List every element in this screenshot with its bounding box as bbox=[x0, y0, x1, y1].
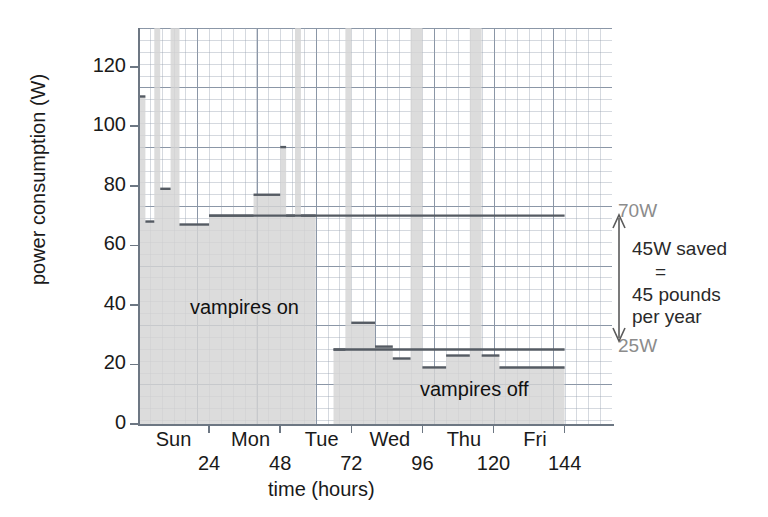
x-day-label-wed: Wed bbox=[355, 428, 425, 451]
y-tick-label-100: 100 bbox=[82, 113, 126, 136]
series-area-0 bbox=[138, 28, 316, 424]
y-tick-120 bbox=[130, 66, 139, 68]
x-tick-label-144: 144 bbox=[535, 452, 595, 475]
saved-line-1: 45W saved bbox=[632, 238, 727, 259]
series-vampires-off bbox=[334, 28, 565, 424]
y-tick-label-0: 0 bbox=[82, 411, 126, 434]
x-tick-label-24: 24 bbox=[179, 452, 239, 475]
y-tick-label-40: 40 bbox=[82, 292, 126, 315]
y-tick-100 bbox=[130, 125, 139, 127]
x-day-label-tue: Tue bbox=[287, 428, 357, 451]
chart-root: power consumption (W) 020406080100120 24… bbox=[0, 0, 768, 517]
y-tick-label-120: 120 bbox=[82, 54, 126, 77]
x-day-label-sun: Sun bbox=[139, 428, 209, 451]
y-tick-40 bbox=[130, 304, 139, 306]
saved-line-3: 45 pounds bbox=[632, 284, 721, 305]
y-tick-label-60: 60 bbox=[82, 232, 126, 255]
y-tick-20 bbox=[130, 364, 139, 366]
saved-arrow-icon bbox=[606, 212, 632, 344]
region-label-vampires-off: vampires off bbox=[420, 378, 529, 401]
x-tick-label-72: 72 bbox=[321, 452, 381, 475]
x-day-label-fri: Fri bbox=[500, 428, 570, 451]
saved-line-4: per year bbox=[632, 306, 702, 327]
x-axis-title: time (hours) bbox=[268, 478, 375, 501]
y-axis-title: power consumption (W) bbox=[27, 30, 50, 330]
series-area-1 bbox=[334, 28, 565, 424]
x-tick-label-120: 120 bbox=[464, 452, 524, 475]
y-tick-label-80: 80 bbox=[82, 173, 126, 196]
x-tick-label-48: 48 bbox=[250, 452, 310, 475]
saved-line-2: = bbox=[655, 261, 666, 282]
y-axis-line bbox=[138, 28, 140, 425]
y-tick-60 bbox=[130, 245, 139, 247]
x-day-label-mon: Mon bbox=[216, 428, 286, 451]
x-tick-label-96: 96 bbox=[392, 452, 452, 475]
series-layer bbox=[138, 28, 612, 424]
series-vampires-on bbox=[138, 28, 316, 424]
y-tick-80 bbox=[130, 185, 139, 187]
region-label-vampires-on: vampires on bbox=[190, 296, 299, 319]
y-tick-label-20: 20 bbox=[82, 351, 126, 374]
y-tick-0 bbox=[130, 423, 139, 425]
x-day-label-thu: Thu bbox=[429, 428, 499, 451]
plot-area bbox=[138, 28, 612, 424]
